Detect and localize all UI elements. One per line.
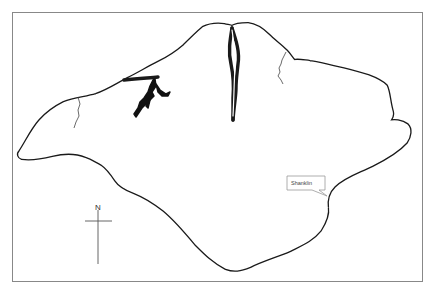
island-map: N Shanklin	[0, 0, 432, 292]
compass-north-label: N	[95, 203, 101, 212]
shanklin-label: Shanklin	[291, 180, 312, 186]
island-coastline	[19, 24, 410, 270]
compass-rose: N	[85, 203, 112, 264]
